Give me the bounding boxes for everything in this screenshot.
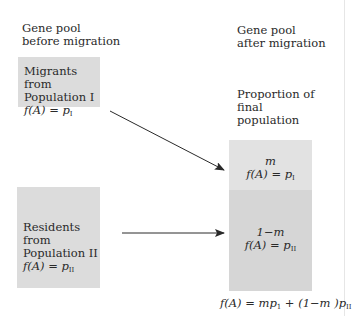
migration-arrow-icon (110, 111, 224, 170)
